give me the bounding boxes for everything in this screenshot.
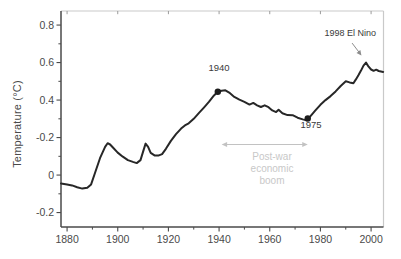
- x-axis-tick-label: 1980: [309, 233, 333, 245]
- annotation-post-war-economic-boom: Post-war economic boom: [251, 151, 294, 187]
- temperature-chart: 18801900192019401960198020000.80.60.4-0.…: [0, 0, 401, 259]
- x-axis-tick-label: 1900: [106, 233, 130, 245]
- x-axis-tick-label: 1940: [207, 233, 231, 245]
- postwar-line-3: boom: [251, 175, 294, 187]
- y-axis-tick-label: -0.2: [36, 131, 54, 143]
- y-axis-tick-label: 0.4: [39, 94, 54, 106]
- y-axis-tick-label: 0: [48, 169, 54, 181]
- x-axis-tick-label: 1960: [258, 233, 282, 245]
- y-axis-title: Temperature (°C): [11, 80, 23, 168]
- y-axis-tick-label: 0.8: [39, 19, 54, 31]
- annotation-1940: 1940: [208, 62, 229, 73]
- data-point-marker-1940: [215, 89, 221, 95]
- x-axis-tick-label: 1920: [157, 233, 181, 245]
- annotation-1998-el-nino: 1998 El Nino: [324, 28, 376, 38]
- y-axis-tick-label: 0.6: [39, 56, 54, 68]
- x-axis-tick-label: 1880: [55, 233, 79, 245]
- figure: 18801900192019401960198020000.80.60.4-0.…: [0, 0, 401, 259]
- postwar-line-2: economic: [251, 163, 294, 175]
- post-war-span-arrow-head-left: [222, 142, 228, 147]
- temperature-curve: [61, 63, 383, 189]
- y-axis-tick-label: -0.2: [36, 206, 54, 218]
- post-war-span-arrow-head-right: [302, 142, 308, 147]
- el-nino-arrow-head: [357, 50, 362, 55]
- postwar-line-1: Post-war: [251, 151, 294, 163]
- annotation-1975: 1975: [300, 119, 321, 130]
- x-axis-tick-label: 2000: [359, 233, 383, 245]
